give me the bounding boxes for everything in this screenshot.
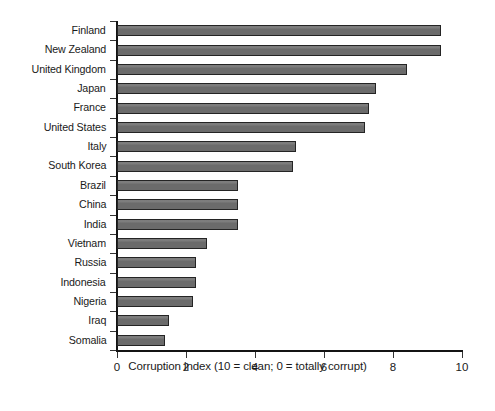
category-label: Japan: [78, 79, 106, 98]
bar: [117, 25, 441, 36]
category-label: Brazil: [80, 176, 106, 195]
category-label: Italy: [87, 137, 106, 156]
y-tick-mark: [110, 176, 116, 177]
y-tick-mark: [110, 292, 116, 293]
category-label: China: [79, 195, 106, 214]
bar: [117, 219, 238, 230]
bar: [117, 199, 238, 210]
category-label: Indonesia: [61, 273, 106, 292]
y-tick-mark: [110, 234, 116, 235]
y-tick-mark: [110, 137, 116, 138]
bar: [117, 64, 407, 75]
y-tick-mark: [110, 350, 116, 351]
x-axis-line: [116, 350, 463, 352]
bar-chart: FinlandNew ZealandUnited KingdomJapanFra…: [0, 0, 495, 411]
y-tick-mark: [110, 40, 116, 41]
bar: [117, 83, 376, 94]
y-tick-mark: [110, 215, 116, 216]
bar: [117, 238, 207, 249]
bar: [117, 45, 441, 56]
bar: [117, 335, 165, 346]
x-tick-mark: [462, 352, 463, 358]
category-label: Vietnam: [68, 234, 106, 253]
x-tick-mark: [186, 352, 187, 358]
y-tick-mark: [110, 98, 116, 99]
bar: [117, 141, 296, 152]
y-tick-mark: [110, 311, 116, 312]
bar: [117, 277, 196, 288]
x-tick-mark: [255, 352, 256, 358]
y-axis-category-labels: FinlandNew ZealandUnited KingdomJapanFra…: [0, 21, 112, 350]
category-label: South Korea: [48, 156, 106, 175]
plot-area: 0246810: [117, 21, 462, 350]
bar: [117, 180, 238, 191]
category-label: Iraq: [88, 311, 106, 330]
category-label: Somalia: [68, 331, 106, 350]
bar: [117, 296, 193, 307]
category-label: United States: [44, 118, 106, 137]
y-tick-mark: [110, 331, 116, 332]
bar: [117, 103, 369, 114]
category-label: India: [84, 215, 106, 234]
bar: [117, 122, 365, 133]
y-tick-mark: [110, 253, 116, 254]
category-label: New Zealand: [45, 40, 106, 59]
category-label: United Kingdom: [32, 60, 106, 79]
y-tick-mark: [110, 60, 116, 61]
category-label: Russia: [74, 253, 106, 272]
x-tick-mark: [117, 352, 118, 358]
y-tick-mark: [110, 273, 116, 274]
bar: [117, 161, 293, 172]
bar: [117, 257, 196, 268]
y-tick-mark: [110, 195, 116, 196]
category-label: France: [74, 98, 106, 117]
y-tick-mark: [110, 79, 116, 80]
x-axis-label: Corruption index (10 = clean; 0 = totall…: [0, 360, 495, 372]
bar: [117, 315, 169, 326]
y-tick-mark: [110, 156, 116, 157]
y-tick-mark: [110, 21, 116, 22]
category-label: Nigeria: [73, 292, 106, 311]
y-tick-mark: [110, 118, 116, 119]
category-label: Finland: [72, 21, 106, 40]
x-tick-mark: [324, 352, 325, 358]
x-tick-mark: [393, 352, 394, 358]
